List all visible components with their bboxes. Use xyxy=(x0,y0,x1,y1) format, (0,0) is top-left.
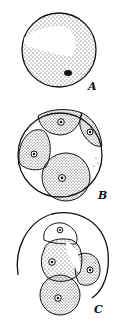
panel-label-a: A xyxy=(88,80,97,93)
panel-b-cell xyxy=(18,110,102,201)
panel-label-b: B xyxy=(98,189,107,202)
panel-c-cells xyxy=(17,213,108,315)
panel-label-c: C xyxy=(94,303,103,316)
nucleus xyxy=(64,70,72,76)
panel-a-cell xyxy=(22,13,96,87)
